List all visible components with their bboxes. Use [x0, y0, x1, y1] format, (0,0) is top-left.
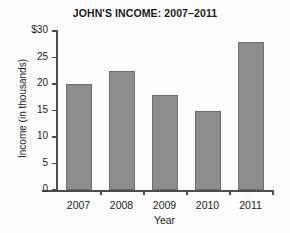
bar-chart: JOHN'S INCOME: 2007–2011 Income (in thou… [0, 0, 290, 233]
x-tick-mark [143, 190, 145, 195]
x-tick-label: 2007 [57, 199, 100, 211]
plot-area [57, 31, 272, 190]
x-tick-mark [186, 190, 188, 195]
y-tick-label: $30 [31, 24, 48, 35]
x-tick-mark [272, 190, 274, 195]
y-tick-label: 10 [37, 130, 48, 141]
x-tick-label: 2009 [143, 199, 186, 211]
x-tick-mark [229, 190, 231, 195]
bar-2008 [109, 71, 135, 190]
y-axis-title: Income (in thousands) [17, 29, 28, 189]
y-tick-label: 5 [42, 157, 48, 168]
x-tick-label: 2008 [100, 199, 143, 211]
y-tick-label: 25 [37, 51, 48, 62]
bar-2010 [195, 111, 221, 191]
bar-2009 [152, 95, 178, 190]
x-axis-title: Year [57, 214, 272, 226]
chart-title: JOHN'S INCOME: 2007–2011 [0, 7, 290, 19]
bar-2011 [238, 42, 264, 190]
y-tick-label: 15 [37, 104, 48, 115]
y-tick-label: 20 [37, 77, 48, 88]
bar-2007 [66, 84, 92, 190]
x-tick-label: 2010 [186, 199, 229, 211]
x-tick-mark [100, 190, 102, 195]
y-tick-label: 0 [42, 183, 48, 194]
x-axis-line [42, 190, 273, 192]
x-tick-label: 2011 [229, 199, 272, 211]
